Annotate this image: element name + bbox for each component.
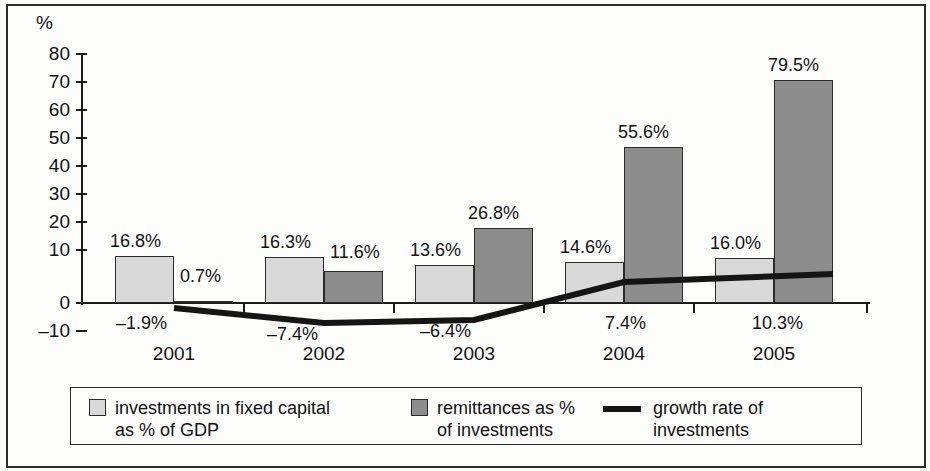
bar-light-2002 — [265, 257, 324, 303]
y-label-80: 80 — [24, 44, 70, 63]
line-value-2005: 10.3% — [752, 314, 803, 332]
y-label-minus10: –10 — [18, 321, 70, 340]
y-tick-10 — [76, 249, 87, 251]
y-label-0: 0 — [24, 293, 70, 312]
bar-light-2004 — [565, 262, 624, 303]
bar-dark-2002 — [324, 271, 383, 303]
bar-value-dark-2002: 11.6% — [330, 243, 380, 261]
y-tick-30 — [76, 193, 87, 195]
bar-dark-2005 — [774, 80, 833, 303]
legend-label-growth-rate: growth rate of investments — [653, 397, 861, 441]
line-value-2001: –1.9% — [116, 314, 167, 332]
y-tick-70 — [76, 81, 87, 83]
y-tick-60 — [76, 109, 87, 111]
chart-page: % 80 70 60 50 40 30 20 10 0 –10 16.8% 0.… — [0, 0, 930, 471]
line-value-2003: –6.4% — [420, 322, 471, 340]
bar-value-light-2005: 16.0% — [710, 234, 761, 252]
y-tick-minus10 — [76, 330, 87, 332]
x-tick-1 — [243, 304, 245, 313]
y-label-10: 10 — [24, 240, 70, 259]
bar-value-light-2002: 16.3% — [260, 233, 311, 251]
bar-light-2003 — [415, 265, 474, 303]
y-label-60: 60 — [24, 100, 70, 119]
legend-remittances-line1: remittances as % — [437, 398, 575, 418]
x-tick-5 — [866, 304, 868, 313]
legend-item-investments: investments in fixed capital as % of GDP — [89, 397, 330, 441]
bar-value-light-2004: 14.6% — [560, 238, 611, 256]
y-label-40: 40 — [24, 156, 70, 175]
x-label-2001: 2001 — [124, 344, 224, 363]
bar-value-dark-2003: 26.8% — [468, 204, 519, 222]
x-label-2003: 2003 — [424, 344, 524, 363]
y-axis-unit-label: % — [36, 12, 53, 34]
y-axis-line — [81, 53, 83, 305]
y-tick-0 — [76, 302, 87, 304]
legend-light-swatch-icon — [89, 399, 106, 416]
bar-dark-2001 — [174, 301, 233, 303]
legend-investments-line1: investments in fixed capital — [115, 398, 330, 418]
bar-dark-2004 — [624, 147, 683, 303]
bar-value-dark-2001: 0.7% — [180, 267, 221, 285]
bar-light-2005 — [715, 258, 774, 303]
bar-value-light-2003: 13.6% — [410, 241, 461, 259]
bar-value-dark-2004: 55.6% — [618, 123, 669, 141]
legend-item-growth-rate: growth rate of investments — [603, 397, 861, 441]
y-tick-20 — [76, 221, 87, 223]
x-label-2004: 2004 — [574, 344, 674, 363]
y-label-70: 70 — [24, 72, 70, 91]
chart-legend: investments in fixed capital as % of GDP… — [70, 387, 862, 445]
x-tick-2 — [393, 304, 395, 313]
x-label-2002: 2002 — [274, 344, 374, 363]
x-label-2005: 2005 — [724, 344, 824, 363]
x-tick-3 — [543, 304, 545, 313]
y-tick-80 — [76, 53, 87, 55]
bar-light-2001 — [115, 256, 174, 303]
line-value-2002: –7.4% — [267, 325, 318, 343]
legend-investments-line2: as % of GDP — [115, 420, 219, 440]
y-label-30: 30 — [24, 184, 70, 203]
legend-line-swatch-icon — [603, 406, 641, 412]
y-tick-40 — [76, 165, 87, 167]
line-value-2004: 7.4% — [605, 314, 646, 332]
legend-label-investments: investments in fixed capital as % of GDP — [115, 397, 330, 441]
legend-remittances-line2: of investments — [437, 420, 553, 440]
bar-value-light-2001: 16.8% — [110, 232, 161, 250]
bar-dark-2003 — [474, 228, 533, 303]
bar-value-dark-2005: 79.5% — [768, 56, 819, 74]
y-tick-50 — [76, 137, 87, 139]
legend-label-remittances: remittances as % of investments — [437, 397, 575, 441]
x-tick-4 — [693, 304, 695, 313]
y-label-20: 20 — [24, 212, 70, 231]
legend-dark-swatch-icon — [411, 399, 428, 416]
legend-item-remittances: remittances as % of investments — [411, 397, 575, 441]
y-label-50: 50 — [24, 128, 70, 147]
